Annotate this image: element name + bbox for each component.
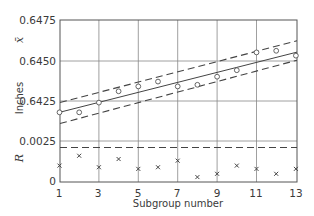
xtick-11: 11 [249,187,262,199]
range-point [77,154,81,158]
xtick-1: 1 [56,187,63,199]
control-chart: 0.6475 0.6450 0.6425 0.0025 0 x̄ Inches … [0,0,314,216]
xtick-13: 13 [289,187,302,199]
range-point [274,172,278,176]
x-axis-label: Subgroup number [133,198,224,209]
mean-point [175,84,180,89]
y-axis-label: Inches [14,82,25,115]
control-lines [60,41,297,148]
mean-point [97,100,102,105]
range-point [195,175,199,179]
control-limit-line [60,41,297,103]
mean-point [195,82,200,87]
r-symbol-label: R [13,154,26,163]
mean-point [254,50,259,55]
mean-point [234,68,239,73]
xtick-3: 3 [95,187,102,199]
mean-point [116,89,121,94]
mean-point [274,48,279,53]
mean-point [156,79,161,84]
mean-point [77,110,82,115]
range-point [235,164,239,168]
ytick-0: 0 [49,175,56,187]
mean-point [136,84,141,89]
gridlines [60,20,297,182]
xbar-symbol-label: x̄ [13,36,26,43]
ytick-0-6475: 0.6475 [19,14,56,26]
ytick-0-6450: 0.6450 [19,55,56,67]
range-point [156,165,160,169]
range-point [117,157,121,161]
mean-point [57,110,62,115]
mean-point [215,74,220,79]
ytick-0-0025: 0.0025 [19,135,56,147]
control-limit-line [60,60,297,123]
mean-point [294,53,299,58]
